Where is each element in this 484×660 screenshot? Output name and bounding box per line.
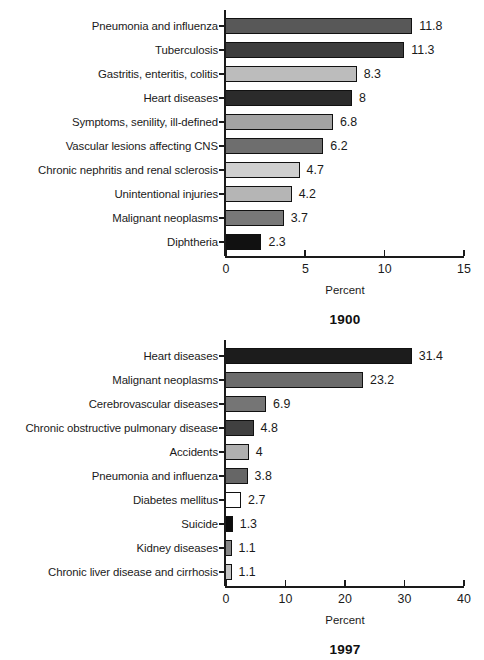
category-label: Malignant neoplasms: [112, 206, 225, 230]
bar-row: Cerebrovascular diseases6.9: [0, 392, 484, 416]
x-axis-tick-label: 40: [457, 592, 471, 606]
bar: [225, 372, 363, 388]
x-axis-title-text: Percent: [325, 614, 364, 626]
x-axis-tick-label: 15: [457, 262, 471, 276]
bar: [225, 18, 412, 34]
category-label: Unintentional injuries: [114, 182, 225, 206]
x-axis-tick: [463, 250, 465, 256]
bar: [225, 138, 323, 154]
bar-rows-1997: Heart diseases31.4Malignant neoplasms23.…: [0, 344, 484, 584]
bar-row: Pneumonia and influenza11.8: [0, 14, 484, 38]
bar-value-label: 4: [249, 444, 263, 460]
bar-value-label: 31.4: [412, 348, 443, 364]
bar-value-label: 11.3: [404, 42, 434, 58]
bar-row: Kidney diseases1.1: [0, 536, 484, 560]
y-axis-line-1900: [224, 10, 226, 256]
x-axis-tick: [225, 250, 227, 256]
x-axis-tick-label: 10: [378, 262, 392, 276]
x-axis-tick-label: 20: [338, 592, 352, 606]
bar-value-label: 4.7: [300, 162, 324, 178]
bar-value-label: 6.2: [323, 138, 347, 154]
bar: [225, 66, 357, 82]
bar-row: Vascular lesions affecting CNS6.2: [0, 134, 484, 158]
category-label: Tuberculosis: [155, 38, 225, 62]
panel-title-1997: 1997: [0, 642, 484, 657]
bar-value-label: 6.9: [266, 396, 290, 412]
x-axis-tick-label: 0: [223, 592, 230, 606]
panel-title-text: 1997: [329, 642, 360, 657]
bar-value-label: 2.7: [241, 492, 265, 508]
category-label: Cerebrovascular diseases: [89, 392, 225, 416]
x-axis-title-text: Percent: [325, 284, 364, 296]
category-label: Chronic liver disease and cirrhosis: [48, 560, 225, 584]
bar-value-label: 1.1: [232, 564, 256, 580]
y-axis-line-1997: [224, 340, 226, 586]
category-label: Pneumonia and influenza: [92, 14, 225, 38]
bar: [225, 492, 241, 508]
bar: [225, 234, 261, 250]
x-axis-tick: [384, 250, 386, 256]
bar-row: Pneumonia and influenza3.8: [0, 464, 484, 488]
panel-title-text: 1900: [329, 312, 360, 327]
bar-row: Tuberculosis11.3: [0, 38, 484, 62]
bar-row: Symptoms, senility, ill-defined6.8: [0, 110, 484, 134]
category-label: Chronic obstructive pulmonary disease: [25, 416, 225, 440]
bar: [225, 348, 412, 364]
x-axis-tick-label: 0: [223, 262, 230, 276]
x-axis-line-1997: [225, 586, 464, 588]
bar-value-label: 4.8: [254, 420, 278, 436]
bar-row: Heart diseases31.4: [0, 344, 484, 368]
x-axis-tick: [463, 580, 465, 586]
category-label: Chronic nephritis and renal sclerosis: [38, 158, 225, 182]
bar: [225, 516, 233, 532]
bar: [225, 420, 254, 436]
bar-value-label: 3.7: [284, 210, 308, 226]
x-axis-tick: [344, 580, 346, 586]
x-axis-title-1997: Percent: [0, 614, 484, 626]
category-label: Heart diseases: [143, 86, 225, 110]
bar: [225, 396, 266, 412]
x-axis-line-1900: [225, 256, 464, 258]
category-label: Pneumonia and influenza: [92, 464, 225, 488]
bar-row: Chronic liver disease and cirrhosis1.1: [0, 560, 484, 584]
bar: [225, 90, 352, 106]
bar-row: Diabetes mellitus2.7: [0, 488, 484, 512]
bar-row: Malignant neoplasms3.7: [0, 206, 484, 230]
bar: [225, 162, 300, 178]
bar-row: Heart diseases8: [0, 86, 484, 110]
panel-title-1900: 1900: [0, 312, 484, 327]
bar-rows-1900: Pneumonia and influenza11.8Tuberculosis1…: [0, 14, 484, 254]
x-axis-tick: [304, 250, 306, 256]
bar-row: Chronic nephritis and renal sclerosis4.7: [0, 158, 484, 182]
bar-value-label: 1.3: [233, 516, 257, 532]
bar: [225, 114, 333, 130]
bar-value-label: 4.2: [292, 186, 316, 202]
bar-value-label: 23.2: [363, 372, 394, 388]
bar-row: Accidents4: [0, 440, 484, 464]
category-label: Malignant neoplasms: [112, 368, 225, 392]
x-axis-tick-label: 5: [302, 262, 309, 276]
bar-value-label: 2.3: [261, 234, 285, 250]
bar: [225, 186, 292, 202]
bar: [225, 444, 249, 460]
chart-panel-1997: Heart diseases31.4Malignant neoplasms23.…: [0, 330, 484, 660]
category-label: Diphtheria: [167, 230, 225, 254]
plot-area-1997: Heart diseases31.4Malignant neoplasms23.…: [0, 330, 484, 598]
bar-value-label: 3.8: [248, 468, 272, 484]
category-label: Gastritis, enteritis, colitis: [98, 62, 225, 86]
plot-area-1900: Pneumonia and influenza11.8Tuberculosis1…: [0, 0, 484, 268]
bar-value-label: 8.3: [357, 66, 381, 82]
bar-value-label: 6.8: [333, 114, 357, 130]
bar-value-label: 8: [352, 90, 366, 106]
category-label: Symptoms, senility, ill-defined: [72, 110, 225, 134]
category-label: Vascular lesions affecting CNS: [66, 134, 225, 158]
bar-row: Diphtheria2.3: [0, 230, 484, 254]
x-axis-title-1900: Percent: [0, 284, 484, 296]
bar: [225, 468, 248, 484]
category-label: Accidents: [170, 440, 225, 464]
x-axis-tick-label: 10: [279, 592, 293, 606]
chart-panel-1900: Pneumonia and influenza11.8Tuberculosis1…: [0, 0, 484, 330]
x-axis-tick: [225, 580, 227, 586]
bar-row: Gastritis, enteritis, colitis8.3: [0, 62, 484, 86]
bar-row: Malignant neoplasms23.2: [0, 368, 484, 392]
